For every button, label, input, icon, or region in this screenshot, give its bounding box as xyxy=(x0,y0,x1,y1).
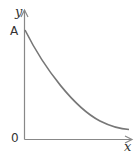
origin-label: 0 xyxy=(11,132,19,144)
decay-curve xyxy=(25,30,129,130)
x-axis-label: x xyxy=(124,140,131,153)
curve-start-label: A xyxy=(10,25,18,37)
graph-canvas xyxy=(0,0,139,159)
y-axis-label: y xyxy=(15,5,22,18)
